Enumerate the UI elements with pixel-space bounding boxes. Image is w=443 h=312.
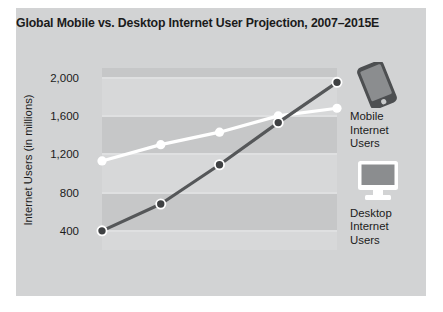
legend-label-desktop: Desktop Internet Users — [350, 207, 426, 248]
series-line — [102, 82, 337, 230]
series-layer — [102, 68, 337, 250]
chart-screenshot: Global Mobile vs. Desktop Internet User … — [0, 0, 443, 312]
smartphone-icon — [350, 62, 412, 108]
y-tick-label: 2,000 — [50, 72, 79, 84]
y-axis-title: Internet Users (in millions) — [22, 70, 38, 250]
y-tick-label: 800 — [60, 187, 79, 199]
chart-legend: Mobile Internet Users Desktop Internet U… — [350, 62, 426, 256]
legend-label-desktop-line-2: Users — [350, 234, 426, 248]
data-point — [332, 78, 341, 87]
legend-label-desktop-line-1: Internet — [350, 220, 426, 234]
data-point — [332, 104, 341, 113]
y-tick-label: 1,200 — [50, 148, 79, 160]
legend-label-desktop-line-0: Desktop — [350, 207, 426, 221]
data-point — [97, 226, 106, 235]
data-point — [97, 156, 106, 165]
y-tick-label: 1,600 — [50, 110, 79, 122]
data-point — [156, 140, 165, 149]
legend-item-mobile: Mobile Internet Users — [350, 62, 426, 151]
legend-label-mobile-line-1: Internet — [350, 124, 426, 138]
legend-label-mobile: Mobile Internet Users — [350, 110, 426, 151]
data-point — [156, 199, 165, 208]
data-point — [274, 118, 283, 127]
y-tick-label: 400 — [60, 225, 79, 237]
desktop-monitor-icon — [350, 159, 412, 205]
plot-area: 4008001,2001,6002,000 200720092011E2013E… — [86, 60, 341, 256]
data-point — [215, 160, 224, 169]
legend-item-desktop: Desktop Internet Users — [350, 159, 426, 248]
plot-canvas — [102, 68, 337, 250]
data-point — [215, 128, 224, 137]
legend-label-mobile-line-2: Users — [350, 137, 426, 151]
legend-label-mobile-line-0: Mobile — [350, 110, 426, 124]
chart-title: Global Mobile vs. Desktop Internet User … — [16, 16, 379, 30]
